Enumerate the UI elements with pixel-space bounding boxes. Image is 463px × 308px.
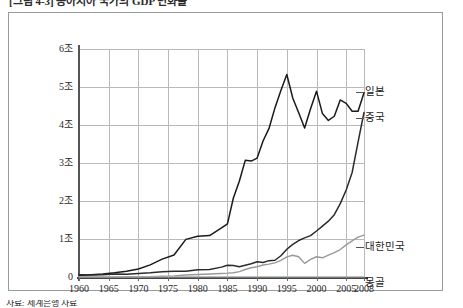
- japan-leader-line: [356, 92, 364, 93]
- figure-frame: 6조5조4조3조2조1조0 19601965197019751980198519…: [8, 12, 443, 291]
- series-label-korea: 대한민국: [365, 241, 405, 252]
- figure-source-clipped: 자료: 세계은행 자료: [6, 300, 236, 308]
- series-label-japan: 일본: [365, 86, 385, 97]
- series-lines: [79, 49, 364, 277]
- plot-area: 6조5조4조3조2조1조0 19601965197019751980198519…: [79, 49, 364, 277]
- series-line-일본: [79, 74, 364, 275]
- series-label-mongolia: 몽골: [365, 277, 385, 288]
- y-tick-0: 0: [39, 272, 73, 282]
- y-tick-3조: 3조: [39, 158, 73, 168]
- figure-title-text: [그림 4-3] 동아시아 국가의 GDP 변화율: [9, 0, 249, 7]
- y-tick-6조: 6조: [39, 44, 73, 54]
- series-line-중국: [79, 112, 364, 275]
- x-tick-mark-1990: [257, 277, 258, 281]
- x-tick-mark-1995: [287, 277, 288, 281]
- y-tick-5조: 5조: [39, 82, 73, 92]
- figure-source-text: 자료: 세계은행 자료: [6, 300, 236, 308]
- y-tick-4조: 4조: [39, 120, 73, 130]
- y-tick-1조: 1조: [39, 234, 73, 244]
- x-tick-mark-1980: [198, 277, 199, 281]
- x-tick-mark-1975: [168, 277, 169, 281]
- korea-leader-line: [356, 247, 364, 248]
- figure-title-clipped: [그림 4-3] 동아시아 국가의 GDP 변화율: [9, 0, 249, 8]
- figure-root: [그림 4-3] 동아시아 국가의 GDP 변화율 6조5조4조3조2조1조0 …: [0, 0, 463, 308]
- x-tick-mark-2005: [346, 277, 347, 281]
- series-label-china: 중국: [365, 112, 385, 123]
- china-leader-line: [356, 118, 364, 119]
- series-line-대한민국: [79, 235, 364, 277]
- x-tick-mark-1985: [227, 277, 228, 281]
- y-tick-2조: 2조: [39, 196, 73, 206]
